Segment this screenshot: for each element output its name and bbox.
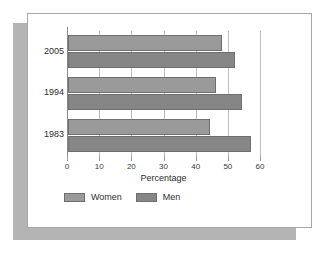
bar-women-1983 bbox=[68, 119, 210, 135]
legend-item-women[interactable]: Women bbox=[64, 192, 122, 202]
bar-group: 2005 bbox=[68, 31, 260, 73]
y-axis-category-label: 1983 bbox=[30, 129, 64, 139]
bar-men-1994 bbox=[68, 94, 242, 110]
bar-men-1983 bbox=[68, 136, 251, 152]
y-axis-category-label: 2005 bbox=[30, 46, 64, 56]
legend-swatch-men bbox=[136, 193, 157, 202]
bar-group: 1983 bbox=[68, 114, 260, 156]
x-axis-tick-label: 50 bbox=[223, 162, 232, 171]
bar-women-2005 bbox=[68, 35, 222, 51]
chart-canvas: 0102030405060200519941983 Percentage Wom… bbox=[28, 14, 311, 227]
bar-group: 1994 bbox=[68, 73, 260, 115]
x-axis-tick bbox=[131, 156, 132, 161]
gridline bbox=[260, 31, 261, 156]
chart-legend: WomenMen bbox=[64, 192, 180, 202]
x-axis-tick-label: 0 bbox=[65, 162, 69, 171]
y-axis-category-label: 1994 bbox=[30, 87, 64, 97]
x-axis-tick-label: 40 bbox=[191, 162, 200, 171]
x-axis-tick bbox=[196, 156, 197, 161]
legend-label: Men bbox=[163, 192, 181, 202]
chart-card: 0102030405060200519941983 Percentage Wom… bbox=[27, 13, 312, 228]
x-axis-title: Percentage bbox=[67, 173, 260, 183]
legend-label: Women bbox=[91, 192, 122, 202]
x-axis-tick-label: 60 bbox=[256, 162, 265, 171]
plot-area: 0102030405060200519941983 bbox=[67, 31, 260, 156]
legend-swatch-women bbox=[64, 193, 85, 202]
x-axis-tick-label: 10 bbox=[95, 162, 104, 171]
bar-men-2005 bbox=[68, 52, 235, 68]
bar-women-1994 bbox=[68, 77, 216, 93]
x-axis-tick bbox=[260, 156, 261, 161]
x-axis-tick bbox=[99, 156, 100, 161]
legend-item-men[interactable]: Men bbox=[136, 192, 181, 202]
x-axis-tick-label: 30 bbox=[159, 162, 168, 171]
x-axis-tick bbox=[67, 156, 68, 161]
x-axis-tick bbox=[228, 156, 229, 161]
chart-screenshot: 0102030405060200519941983 Percentage Wom… bbox=[0, 0, 329, 253]
x-axis-tick bbox=[164, 156, 165, 161]
x-axis-tick-label: 20 bbox=[127, 162, 136, 171]
